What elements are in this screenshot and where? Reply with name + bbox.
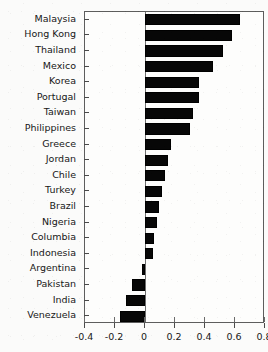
y-axis-tick	[84, 300, 89, 301]
x-axis-tick-inner	[114, 317, 115, 322]
x-axis-tick-inner	[144, 317, 145, 322]
y-axis-label: Chile	[52, 170, 76, 180]
y-axis-label: Argentina	[30, 263, 76, 273]
bar	[145, 123, 190, 134]
bar	[145, 14, 240, 25]
y-axis-label: Pakistan	[36, 279, 76, 289]
y-axis-label: Venezuela	[27, 310, 76, 320]
y-axis-tick	[84, 34, 89, 35]
x-axis-tick-inner	[84, 317, 85, 322]
x-axis-tick	[144, 323, 145, 328]
bar	[145, 61, 213, 72]
x-axis-tick-inner	[234, 317, 235, 322]
x-axis-tick-label: 0.8	[256, 331, 268, 342]
bars-layer	[85, 12, 263, 322]
x-axis-tick-inner	[204, 317, 205, 322]
y-axis-tick	[84, 237, 89, 238]
y-axis-label: Taiwan	[44, 107, 76, 117]
y-axis-label: Indonesia	[30, 248, 76, 258]
bar	[145, 248, 153, 259]
y-axis-label: Philippines	[25, 123, 76, 133]
bar	[145, 30, 232, 41]
y-axis-label: Korea	[49, 76, 76, 86]
bar	[142, 264, 145, 275]
bar	[145, 170, 165, 181]
x-axis-tick-inner	[264, 317, 265, 322]
y-axis-tick	[84, 50, 89, 51]
y-axis-label: Columbia	[31, 232, 76, 242]
bar	[145, 155, 168, 166]
y-axis-label: Hong Kong	[24, 29, 76, 39]
y-axis-tick	[84, 206, 89, 207]
y-axis-tick	[84, 190, 89, 191]
y-axis-label: Brazil	[49, 201, 76, 211]
y-axis-tick	[84, 159, 89, 160]
bar	[145, 92, 199, 103]
x-axis-tick	[114, 323, 115, 328]
x-axis-tick	[264, 323, 265, 328]
y-axis-tick	[84, 112, 89, 113]
y-axis-label: Thailand	[35, 45, 76, 55]
x-axis-tick	[174, 323, 175, 328]
y-axis-tick	[84, 144, 89, 145]
bar	[126, 295, 146, 306]
y-axis-label: Portugal	[37, 92, 76, 102]
x-axis-tick-inner	[174, 317, 175, 322]
y-axis-tick	[84, 222, 89, 223]
bar	[145, 77, 199, 88]
x-axis-tick	[204, 323, 205, 328]
y-axis-label: Jordan	[46, 154, 76, 164]
bar	[145, 108, 193, 119]
bar	[145, 139, 171, 150]
y-axis-label: Mexico	[43, 61, 76, 71]
bar	[145, 233, 154, 244]
x-axis-tick	[84, 323, 85, 328]
y-axis-tick	[84, 81, 89, 82]
bar-chart: MalaysiaHong KongThailandMexicoKoreaPort…	[0, 0, 268, 352]
bar	[120, 311, 146, 322]
bar	[145, 201, 159, 212]
bar	[132, 279, 146, 290]
y-axis-tick	[84, 315, 89, 316]
bar	[145, 217, 157, 228]
bar	[145, 186, 162, 197]
y-axis-tick	[84, 128, 89, 129]
y-axis-label: India	[53, 295, 76, 305]
bar	[145, 45, 223, 56]
y-axis-tick	[84, 19, 89, 20]
plot-area	[84, 11, 264, 323]
y-axis-tick	[84, 253, 89, 254]
x-axis-tick-label: 0.4	[196, 331, 211, 342]
x-axis-tick-label: -0.4	[75, 331, 94, 342]
chart-title	[78, 0, 188, 5]
y-axis-tick	[84, 175, 89, 176]
x-axis-tick	[234, 323, 235, 328]
y-axis-tick	[84, 97, 89, 98]
y-axis-label: Turkey	[45, 185, 76, 195]
x-axis-tick-label: 0.6	[226, 331, 241, 342]
y-axis-label: Greece	[42, 139, 76, 149]
x-axis-tick-label: -0.2	[105, 331, 124, 342]
y-axis-tick	[84, 66, 89, 67]
y-axis-tick	[84, 284, 89, 285]
y-axis-label: Malaysia	[34, 14, 76, 24]
y-axis-tick	[84, 268, 89, 269]
y-axis-labels: MalaysiaHong KongThailandMexicoKoreaPort…	[0, 11, 80, 323]
x-axis-tick-label: 0	[141, 331, 147, 342]
y-axis-label: Nigeria	[42, 217, 76, 227]
x-axis-tick-label: 0.2	[166, 331, 181, 342]
